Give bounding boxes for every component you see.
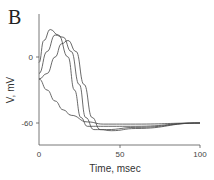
- y-tick-0: 0: [29, 53, 34, 62]
- x-tick-0: 0: [37, 150, 42, 159]
- x-axis-label: Time, msec: [89, 163, 140, 174]
- voltage-trace-1: [39, 30, 200, 127]
- y-tick-minus60: -60: [21, 119, 33, 128]
- voltage-trace-passive: [39, 79, 200, 124]
- y-axis: 0 -60 V, mV: [5, 14, 39, 145]
- x-tick-100: 100: [193, 150, 207, 159]
- voltage-trace-3: [39, 41, 200, 131]
- voltage-trace-2: [39, 35, 200, 130]
- x-tick-50: 50: [116, 150, 125, 159]
- y-axis-label: V, mV: [5, 77, 16, 104]
- x-axis: 0 50 100 Time, msec: [37, 145, 207, 174]
- chart: 0 -60 V, mV 0 50 100 Time, msec: [0, 0, 214, 180]
- traces: [39, 30, 200, 131]
